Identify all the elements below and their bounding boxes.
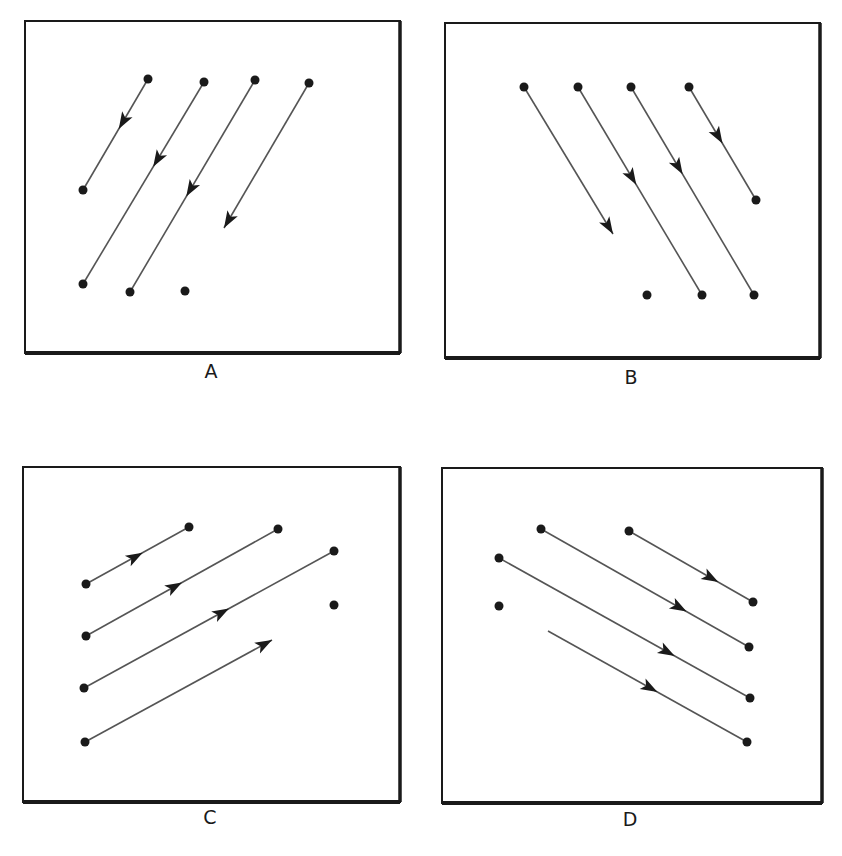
panel-label-c: C [203, 806, 216, 828]
arrowhead-icon [669, 598, 687, 612]
end-point-dot [698, 291, 707, 300]
start-point-dot [495, 554, 504, 563]
arrowhead-icon [701, 568, 719, 582]
start-point-dot [80, 684, 89, 693]
vector-line [578, 87, 702, 295]
start-point-dot [82, 632, 91, 641]
vector-line [631, 87, 754, 295]
panel-c [23, 467, 400, 802]
start-point-dot [574, 83, 583, 92]
panel-frame [442, 468, 822, 803]
end-point-dot [79, 186, 88, 195]
arrowhead-icon [254, 640, 272, 653]
end-point-dot [330, 547, 339, 556]
panel-label-a: A [205, 360, 218, 382]
arrowhead-icon [153, 149, 167, 167]
vector-diagram [0, 0, 842, 856]
arrowhead-icon [622, 167, 636, 185]
end-point-dot [274, 525, 283, 534]
arrowhead-icon [657, 642, 675, 656]
end-point-dot [750, 291, 759, 300]
isolated-point-dot [181, 287, 190, 296]
vector-line [83, 82, 204, 284]
start-point-dot [627, 83, 636, 92]
isolated-point-dot [330, 601, 339, 610]
panel-label-d: D [623, 808, 638, 830]
end-point-dot [185, 523, 194, 532]
end-point-dot [752, 196, 761, 205]
panel-frame [445, 23, 820, 358]
start-point-dot [144, 75, 153, 84]
panel-frame [23, 467, 400, 802]
end-point-dot [749, 598, 758, 607]
arrowhead-icon [186, 179, 200, 197]
start-point-dot [81, 738, 90, 747]
start-point-dot [625, 527, 634, 536]
panel-b [445, 23, 820, 358]
vector-line [224, 83, 309, 228]
vector-line [84, 551, 334, 688]
vector-line [524, 87, 613, 234]
arrowhead-icon [164, 583, 182, 597]
vector-line [83, 79, 148, 190]
arrowhead-icon [709, 126, 723, 144]
isolated-point-dot [495, 602, 504, 611]
arrowhead-icon [125, 553, 143, 566]
end-point-dot [745, 643, 754, 652]
start-point-dot [305, 79, 314, 88]
arrowhead-icon [640, 679, 658, 693]
start-point-dot [520, 83, 529, 92]
panel-label-b: B [624, 366, 637, 388]
start-point-dot [82, 580, 91, 589]
vector-line [541, 529, 749, 647]
start-point-dot [200, 78, 209, 87]
start-point-dot [537, 525, 546, 534]
arrowhead-icon [224, 210, 238, 228]
isolated-point-dot [643, 291, 652, 300]
panel-d [442, 468, 822, 803]
end-point-dot [743, 738, 752, 747]
vector-line [85, 640, 272, 742]
end-point-dot [126, 288, 135, 297]
end-point-dot [79, 280, 88, 289]
start-point-dot [685, 83, 694, 92]
end-point-dot [746, 694, 755, 703]
panel-a [25, 21, 400, 353]
arrowhead-icon [599, 216, 613, 234]
vector-line [629, 531, 753, 602]
arrowhead-icon [669, 157, 683, 175]
arrowhead-icon [119, 111, 133, 129]
start-point-dot [251, 76, 260, 85]
arrowhead-icon [211, 609, 229, 622]
